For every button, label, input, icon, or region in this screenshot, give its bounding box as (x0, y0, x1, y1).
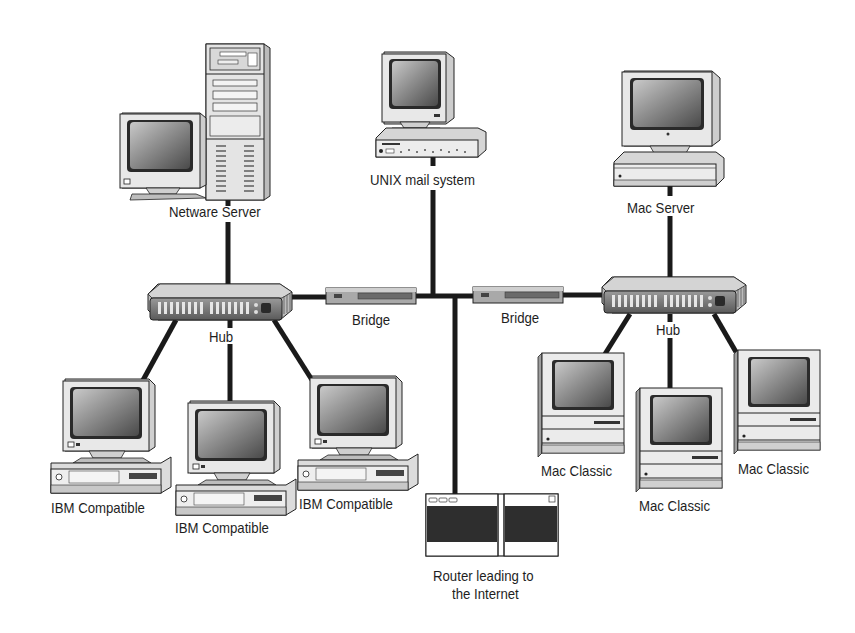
netware-server-label: Netware Server (169, 203, 261, 220)
ibm-compatible-3-node (298, 376, 418, 490)
bridge-left-label: Bridge (352, 311, 390, 328)
hub-right-label: Hub (656, 321, 680, 338)
bridge-left-node (326, 288, 416, 304)
router-label-line1: Router leading to (433, 567, 534, 584)
hub-left-node (148, 284, 292, 320)
bridge-right-node (473, 287, 563, 303)
unix-mail-system-label: UNIX mail system (370, 171, 475, 188)
ibm-compatible-2-node (176, 401, 296, 515)
mac-classic-3-label: Mac Classic (738, 460, 809, 477)
router-node (426, 494, 558, 556)
bridge-right-label: Bridge (501, 309, 539, 326)
mac-classic-3-node (734, 350, 820, 454)
mac-classic-2-node (636, 388, 722, 492)
mac-classic-1-node (538, 353, 624, 457)
ibm-compatible-1-node (51, 379, 171, 493)
ibm-compatible-2-label: IBM Compatible (175, 519, 269, 536)
network-diagram (0, 0, 855, 633)
netware-server-node (120, 44, 270, 200)
hub-right-node (602, 277, 746, 313)
ibm-compatible-1-label: IBM Compatible (51, 499, 145, 516)
ibm-compatible-3-label: IBM Compatible (299, 495, 393, 512)
unix-mail-system-node (376, 52, 486, 157)
mac-classic-1-label: Mac Classic (541, 462, 612, 479)
mac-server-node (614, 71, 724, 186)
mac-server-label: Mac Server (627, 199, 694, 216)
router-label-line2: the Internet (452, 585, 519, 602)
mac-classic-2-label: Mac Classic (639, 497, 710, 514)
hub-left-label: Hub (209, 328, 233, 345)
